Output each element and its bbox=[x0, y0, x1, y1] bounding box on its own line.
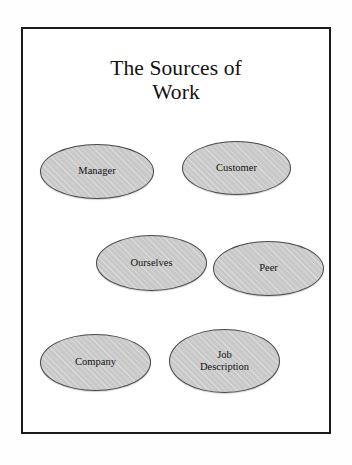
slide-frame-border: The Sources of Work Manager Customer Our… bbox=[21, 27, 331, 434]
concept-node-company[interactable]: Company bbox=[40, 334, 151, 391]
page-title-line-1: The Sources of bbox=[23, 56, 329, 80]
concept-node-job-description-label: Job Description bbox=[194, 349, 255, 374]
page-title: The Sources of Work bbox=[23, 56, 329, 104]
concept-node-ourselves[interactable]: Ourselves bbox=[96, 235, 207, 291]
concept-node-job-description-label-line-1: Job bbox=[217, 349, 232, 360]
slide-canvas: The Sources of Work Manager Customer Our… bbox=[0, 0, 352, 465]
concept-node-job-description-label-line-2: Description bbox=[200, 361, 249, 372]
concept-node-customer-label: Customer bbox=[210, 162, 263, 174]
page-title-line-2: Work bbox=[23, 80, 329, 104]
concept-node-manager[interactable]: Manager bbox=[40, 144, 154, 199]
concept-node-customer[interactable]: Customer bbox=[182, 141, 291, 195]
concept-node-job-description[interactable]: Job Description bbox=[169, 329, 280, 393]
concept-node-company-label: Company bbox=[69, 356, 122, 368]
concept-node-peer[interactable]: Peer bbox=[213, 241, 324, 296]
concept-node-manager-label: Manager bbox=[72, 165, 121, 177]
concept-node-peer-label: Peer bbox=[253, 262, 284, 274]
concept-node-ourselves-label: Ourselves bbox=[125, 257, 179, 269]
